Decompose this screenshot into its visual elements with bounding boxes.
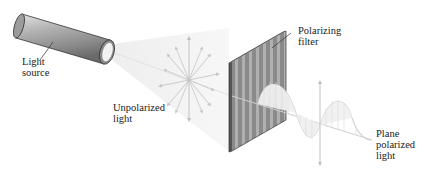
plane-label-line2: polarized — [376, 139, 415, 150]
polarizing-filter-label: Polarizing filter — [298, 25, 341, 47]
polarization-diagram: Light source Unpolarized light Polarizin… — [0, 0, 436, 174]
filter-label-line1: Polarizing — [298, 25, 341, 36]
light-beam — [112, 28, 229, 152]
diagram-canvas — [0, 0, 436, 174]
unpolarized-light-label: Unpolarized light — [113, 102, 165, 124]
light-source-label-line1: Light — [22, 56, 49, 67]
plane-label-line3: light — [376, 150, 415, 161]
unpolarized-label-line2: light — [113, 113, 165, 124]
light-source-label-line2: source — [22, 67, 49, 78]
plane-polarized-light-label: Plane polarized light — [376, 128, 415, 161]
plane-label-line1: Plane — [376, 128, 415, 139]
unpolarized-label-line1: Unpolarized — [113, 102, 165, 113]
filter-label-line2: filter — [298, 36, 341, 47]
light-source-label: Light source — [22, 56, 49, 78]
